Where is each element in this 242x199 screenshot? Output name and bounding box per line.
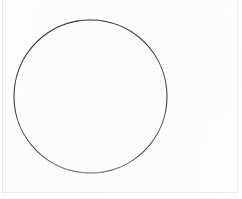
circle-upper-left-arc-emphasis [16,20,78,78]
circle-outline [14,20,167,173]
scanned-page [0,0,242,199]
figure-canvas [0,0,242,199]
